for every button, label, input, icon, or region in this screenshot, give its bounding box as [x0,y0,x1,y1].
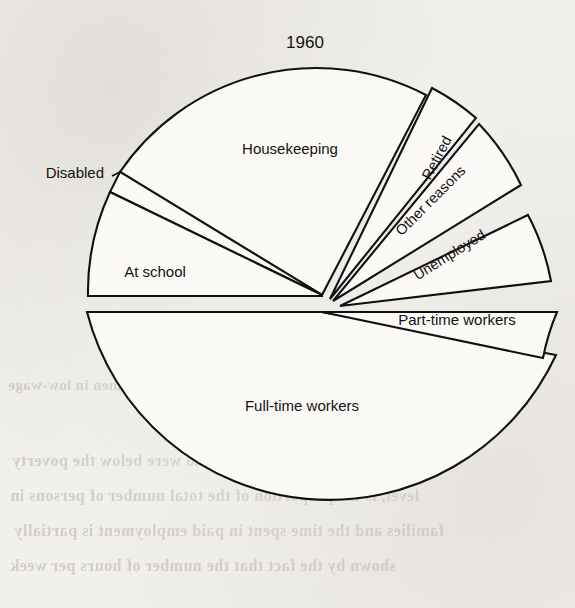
pie-chart-svg: 1960 Housekeeping Retired Other reasons … [0,0,575,608]
pie-label-part-time-workers: Part-time workers [398,311,516,328]
pie-label-disabled: Disabled [46,164,104,181]
chart-title: 1960 [286,33,324,52]
figure-container: men with low incomes and a larger percen… [0,0,575,608]
pie-label-housekeeping: Housekeeping [242,140,338,157]
pie-label-at-school: At school [124,263,186,280]
pie-label-full-time-workers: Full-time workers [245,397,359,414]
